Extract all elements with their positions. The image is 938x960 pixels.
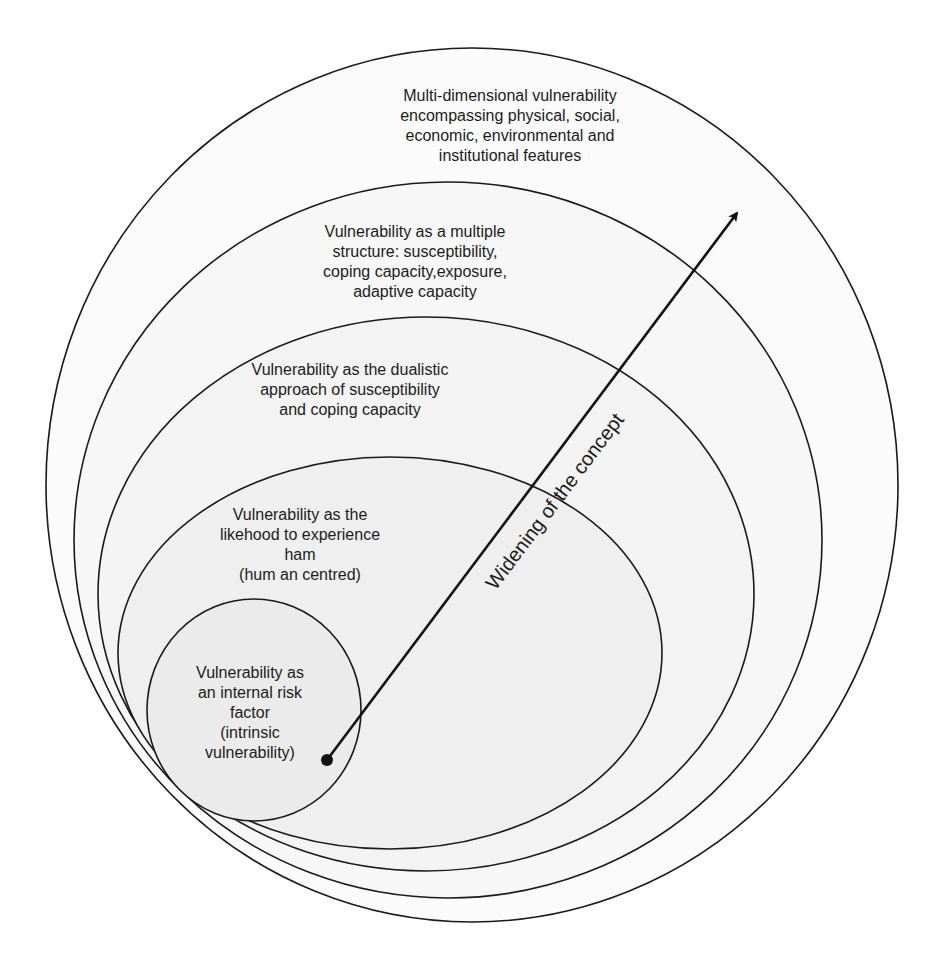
level-2-label: Vulnerability as the likehood to experie… (200, 505, 400, 585)
level-1-label: Vulnerability as an internal risk factor… (175, 663, 325, 763)
level-3-label: Vulnerability as the dualistic approach … (225, 360, 475, 420)
level-5-label: Multi-dimensional vulnerability encompas… (360, 86, 660, 166)
level-4-label: Vulnerability as a multiple structure: s… (310, 222, 520, 302)
